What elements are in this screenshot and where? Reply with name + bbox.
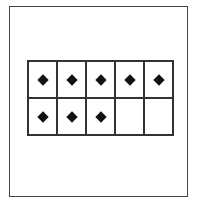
ten-frame-cell xyxy=(115,61,144,98)
diamond-marker-icon xyxy=(37,74,48,85)
diamond-marker-icon xyxy=(153,74,164,85)
ten-frame-cell xyxy=(86,61,115,98)
diamond-marker-icon xyxy=(37,111,48,122)
ten-frame-cell xyxy=(144,98,173,135)
diamond-marker-icon xyxy=(124,74,135,85)
diamond-marker-icon xyxy=(95,74,106,85)
ten-frame-cell xyxy=(28,61,57,98)
ten-frame-cell xyxy=(115,98,144,135)
diamond-marker-icon xyxy=(95,111,106,122)
ten-frame-cell xyxy=(28,98,57,135)
ten-frame-cell xyxy=(57,61,86,98)
diamond-marker-icon xyxy=(66,74,77,85)
ten-frame-cell xyxy=(144,61,173,98)
ten-frame-cell xyxy=(86,98,115,135)
ten-frame-grid xyxy=(27,60,174,136)
ten-frame-cell xyxy=(57,98,86,135)
diamond-marker-icon xyxy=(66,111,77,122)
